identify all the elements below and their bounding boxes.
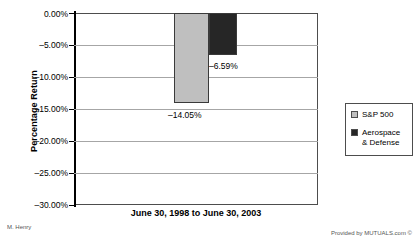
bar-label-aerospace-defense: –6.59% [209,61,238,71]
x-axis-title: June 30, 1998 to June 30, 2003 [74,208,318,218]
legend-item-sp500[interactable]: S&P 500 [351,110,393,120]
bar-aerospace-defense[interactable] [209,13,237,55]
legend-swatch-icon [351,129,358,136]
y-axis-tick-labels: 0.00% –5.00% –10.00% –15.00% –20.00% –25… [6,0,68,246]
footer-author: M. Henry [7,224,31,230]
legend-label: S&P 500 [362,110,393,120]
legend-item-aerospace-defense[interactable]: Aerospace & Defense [351,128,400,147]
gridline [74,173,318,174]
bar-sp500[interactable] [174,13,209,103]
y-tick-label: –10.00% [12,72,68,82]
legend-swatch-icon [351,111,358,118]
legend: S&P 500 Aerospace & Defense [345,103,413,156]
y-tick-label: –5.00% [12,40,68,50]
y-tick-label: –25.00% [12,168,68,178]
y-tick-label: 0.00% [12,9,68,19]
footer-attribution: Provided by MUTUALS.com © [331,230,412,236]
gridline [74,141,318,142]
legend-label: Aerospace & Defense [362,128,400,147]
bar-label-sp500: –14.05% [168,110,202,120]
y-tick-label: –15.00% [12,104,68,114]
y-tick-label: –30.00% [12,200,68,210]
y-tick-label: –20.00% [12,136,68,146]
bar-chart: Percentage Return 0.00% –5.00% –10.00% –… [0,0,420,246]
